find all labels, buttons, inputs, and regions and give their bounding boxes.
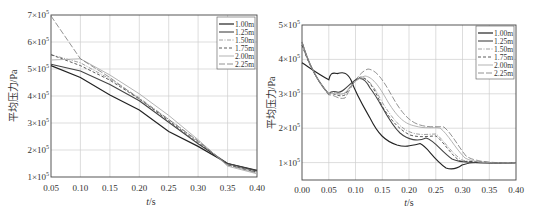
left-y-axis-label: 平均压力/Pa xyxy=(7,69,19,122)
svg-text:1×105: 1×105 xyxy=(27,171,49,182)
svg-text:4×105: 4×105 xyxy=(278,53,300,64)
svg-text:0.35: 0.35 xyxy=(220,183,236,193)
svg-text:0.30: 0.30 xyxy=(455,185,471,195)
right-y-axis-label: 平均压力/Pa xyxy=(265,76,277,129)
svg-text:5×105: 5×105 xyxy=(27,63,49,74)
left-legend: 1.00m 1.25m 1.50m 1.75m 2.00m 2.25m xyxy=(217,17,255,69)
svg-text:0.25: 0.25 xyxy=(161,183,177,193)
left-y-ticks: 7×105 6×105 5×105 4×105 3×105 2×105 1×10… xyxy=(27,9,49,182)
right-y-ticks: 5×105 4×105 3×105 2×105 1×105 xyxy=(278,19,300,168)
svg-text:2.25m: 2.25m xyxy=(494,69,513,78)
svg-text:0.15: 0.15 xyxy=(374,185,390,195)
svg-text:0.30: 0.30 xyxy=(190,183,206,193)
svg-text:0.15: 0.15 xyxy=(102,183,118,193)
svg-text:3×105: 3×105 xyxy=(278,88,300,99)
right-x-ticks: 0.00 0.05 0.10 0.15 0.20 0.25 0.30 0.35 … xyxy=(294,185,524,195)
svg-text:2.25m: 2.25m xyxy=(235,60,254,69)
left-series-2.00m xyxy=(51,59,257,174)
left-series-1.75m xyxy=(51,55,257,172)
svg-text:6×105: 6×105 xyxy=(27,36,49,47)
right-chart: 5×105 4×105 3×105 2×105 1×105 0.00 0.05 … xyxy=(265,19,524,208)
left-x-axis-label: t/s xyxy=(146,196,156,207)
svg-text:0.20: 0.20 xyxy=(401,185,417,195)
left-series-1.50m xyxy=(51,55,257,172)
svg-text:0.35: 0.35 xyxy=(481,185,497,195)
left-series-1.25m xyxy=(51,64,257,171)
svg-text:0.40: 0.40 xyxy=(249,183,265,193)
svg-text:0.05: 0.05 xyxy=(43,183,59,193)
svg-text:0.20: 0.20 xyxy=(131,183,147,193)
figure: 7×105 6×105 5×105 4×105 3×105 2×105 1×10… xyxy=(0,0,534,220)
svg-text:3×105: 3×105 xyxy=(27,117,49,128)
left-chart: 7×105 6×105 5×105 4×105 3×105 2×105 1×10… xyxy=(7,9,265,207)
svg-text:2×105: 2×105 xyxy=(27,144,49,155)
left-x-ticks: 0.05 0.10 0.15 0.20 0.25 0.30 0.35 0.40 xyxy=(43,183,265,193)
svg-text:0.25: 0.25 xyxy=(428,185,444,195)
svg-text:0.10: 0.10 xyxy=(73,183,89,193)
svg-text:0.05: 0.05 xyxy=(321,185,337,195)
svg-text:1×105: 1×105 xyxy=(278,157,300,168)
right-legend: 1.00m 1.25m 1.50m 1.75m 2.00m 2.25m xyxy=(476,26,514,79)
right-x-axis-label: t/s xyxy=(404,197,414,208)
svg-text:0.10: 0.10 xyxy=(348,185,364,195)
svg-text:4×105: 4×105 xyxy=(27,90,49,101)
left-series-1.00m xyxy=(51,66,257,171)
svg-text:5×105: 5×105 xyxy=(278,19,300,30)
svg-text:7×105: 7×105 xyxy=(27,9,49,20)
svg-text:0.40: 0.40 xyxy=(508,185,524,195)
svg-text:0.00: 0.00 xyxy=(294,185,310,195)
svg-text:2×105: 2×105 xyxy=(278,122,300,133)
